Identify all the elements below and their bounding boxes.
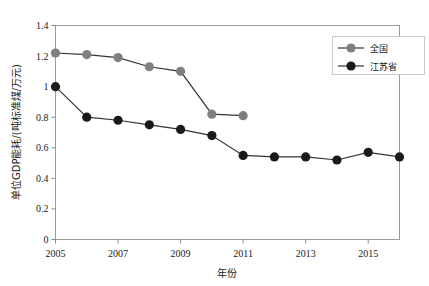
data-point	[51, 82, 60, 91]
series-2	[51, 82, 404, 165]
data-point	[51, 48, 60, 57]
data-point	[176, 67, 185, 76]
data-point	[113, 53, 122, 62]
y-tick-label: 0.2	[36, 203, 49, 214]
legend-label: 全国	[370, 43, 388, 54]
series-line	[56, 87, 400, 160]
data-point	[239, 151, 248, 160]
data-point	[145, 120, 154, 129]
chart-legend: 全国江苏省	[333, 37, 425, 75]
y-tick-label: 1.2	[36, 51, 49, 62]
data-point	[113, 116, 122, 125]
data-point	[176, 125, 185, 134]
x-tick-label: 2007	[108, 248, 128, 259]
data-point	[145, 62, 154, 71]
x-tick-label: 2005	[46, 248, 66, 259]
x-tick-label: 2009	[171, 248, 191, 259]
legend-marker	[346, 61, 355, 70]
y-tick-label: 0.4	[36, 173, 49, 184]
y-tick-label: 0.8	[36, 112, 49, 123]
x-axis-title: 年份	[217, 267, 237, 279]
data-point	[207, 131, 216, 140]
data-point	[239, 111, 248, 120]
x-tick-label: 2011	[233, 248, 253, 259]
legend-label: 江苏省	[370, 61, 397, 72]
data-point	[207, 110, 216, 119]
line-chart: 00.20.40.60.811.21.4 2005200720092011201…	[0, 0, 429, 286]
y-axis-title: 单位GDP能耗/(吨标准煤/万元)	[10, 64, 22, 200]
y-tick-label: 0	[44, 234, 49, 245]
legend-marker	[346, 43, 355, 52]
data-point	[301, 152, 310, 161]
series-1	[51, 48, 248, 120]
y-tick-label: 1.4	[36, 20, 49, 31]
y-tick-label: 1	[44, 81, 49, 92]
data-point	[364, 148, 373, 157]
chart-container: 00.20.40.60.811.21.4 2005200720092011201…	[0, 0, 429, 286]
x-axis-ticks: 200520072009201120132015	[46, 240, 379, 259]
data-point	[332, 155, 341, 164]
data-point	[82, 50, 91, 59]
x-tick-label: 2015	[358, 248, 378, 259]
x-tick-label: 2013	[296, 248, 316, 259]
data-point	[270, 152, 279, 161]
data-point	[82, 113, 91, 122]
data-point	[395, 152, 404, 161]
y-tick-label: 0.6	[36, 142, 49, 153]
